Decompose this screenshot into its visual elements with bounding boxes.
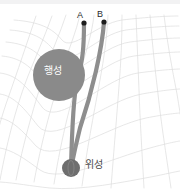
point-a-dot <box>81 20 86 25</box>
light-beams <box>71 22 104 168</box>
grid-hline <box>14 16 178 43</box>
point-b-dot <box>101 19 106 24</box>
satellite-label: 위성 <box>85 160 103 170</box>
grid-vline <box>0 16 36 182</box>
gravitational-lensing-figure: A B 행성 위성 <box>0 0 180 191</box>
point-a-label: A <box>77 11 83 20</box>
satellite-body <box>62 159 80 177</box>
point-b-label: B <box>97 10 103 19</box>
planet-label: 행성 <box>44 66 62 76</box>
grid-vline <box>111 15 122 188</box>
grid-hline <box>0 171 180 189</box>
grid-vline <box>164 15 180 186</box>
